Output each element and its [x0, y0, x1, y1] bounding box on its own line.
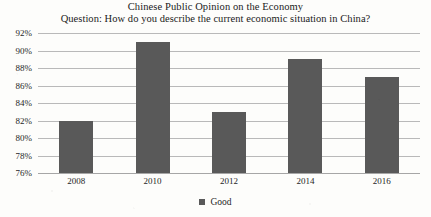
y-axis-tick-label: 76%	[0, 169, 32, 178]
x-axis-tick-label: 2016	[347, 176, 417, 186]
gridline	[38, 173, 420, 174]
y-axis-tick-label: 80%	[0, 134, 32, 143]
bar	[212, 112, 246, 173]
y-axis-tick-label: 92%	[0, 29, 32, 38]
y-axis-tick-label: 90%	[0, 47, 32, 56]
plot-area	[38, 33, 420, 173]
bar	[59, 121, 93, 174]
y-axis-tick-label: 88%	[0, 64, 32, 73]
y-axis-tick-label: 84%	[0, 99, 32, 108]
legend-swatch-good	[199, 199, 205, 205]
chart-title-block: Chinese Public Opinion on the Economy Qu…	[0, 1, 431, 25]
x-axis-tick-label: 2012	[194, 176, 264, 186]
x-axis-tick-label: 2008	[41, 176, 111, 186]
y-axis-tick-label: 86%	[0, 82, 32, 91]
chart-legend: Good	[0, 197, 431, 207]
legend-label-good: Good	[210, 197, 231, 207]
bar-chart: Chinese Public Opinion on the Economy Qu…	[0, 0, 431, 217]
y-axis-tick-label: 82%	[0, 117, 32, 126]
y-axis-tick-label: 78%	[0, 152, 32, 161]
x-axis-tick-label: 2010	[118, 176, 188, 186]
chart-subtitle: Question: How do you describe the curren…	[0, 13, 431, 25]
x-axis-tick-label: 2014	[270, 176, 340, 186]
bar	[136, 42, 170, 173]
bar	[288, 59, 322, 173]
chart-title: Chinese Public Opinion on the Economy	[0, 1, 431, 13]
bar	[365, 77, 399, 173]
bar-series-good	[38, 33, 420, 173]
